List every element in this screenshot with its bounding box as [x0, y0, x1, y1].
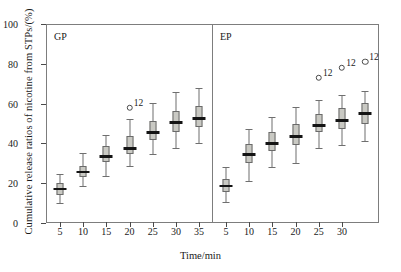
x-tick-label: 15 — [259, 226, 285, 237]
whisker-cap — [103, 176, 110, 177]
x-tick-mark — [272, 222, 273, 227]
x-tick-mark — [249, 222, 250, 227]
plot-area: GP EP — [46, 24, 379, 223]
whisker-cap — [126, 166, 133, 167]
panel-ep-title: EP — [220, 31, 232, 42]
box-iqr — [126, 136, 133, 154]
outlier-marker — [315, 74, 322, 81]
panel-gp-title: GP — [54, 31, 67, 42]
y-tick-label: 60 — [0, 98, 18, 109]
whisker-cap — [362, 91, 369, 92]
outlier-marker — [126, 104, 133, 111]
whisker-cap — [172, 92, 179, 93]
x-tick-label: 20 — [117, 226, 143, 237]
y-tick-label: 0 — [0, 218, 18, 229]
x-tick-label: 5 — [213, 226, 239, 237]
whisker-cap — [246, 129, 253, 130]
y-tick-mark — [41, 24, 46, 25]
x-tick-label: 20 — [283, 226, 309, 237]
whisker-cap — [222, 167, 229, 168]
x-tick-mark — [199, 222, 200, 227]
median-line — [193, 117, 206, 119]
median-line — [169, 121, 182, 123]
whisker-cap — [56, 174, 63, 175]
x-axis-label: Time/min — [0, 250, 401, 261]
median-line — [53, 188, 66, 190]
x-tick-mark — [60, 222, 61, 227]
whisker-cap — [292, 163, 299, 164]
whisker-cap — [103, 135, 110, 136]
x-tick-label: 10 — [70, 226, 96, 237]
whisker-cap — [126, 119, 133, 120]
whisker-cap — [172, 148, 179, 149]
x-tick-mark — [176, 222, 177, 227]
x-tick-label: 25 — [140, 226, 166, 237]
y-tick-label: 20 — [0, 178, 18, 189]
outlier-marker — [339, 65, 346, 72]
y-tick-label: 40 — [0, 138, 18, 149]
y-tick-mark — [41, 183, 46, 184]
x-tick-label: 15 — [93, 226, 119, 237]
whisker-cap — [269, 167, 276, 168]
box-iqr — [315, 114, 322, 133]
chart-root: Cumulative release ratios of nicotine fr… — [0, 0, 401, 272]
whisker-cap — [80, 153, 87, 154]
whisker-cap — [315, 100, 322, 101]
outlier-label: 12 — [323, 68, 333, 78]
outlier-label: 12 — [134, 98, 144, 108]
whisker-cap — [338, 145, 345, 146]
whisker-cap — [269, 117, 276, 118]
whisker-cap — [149, 103, 156, 104]
median-line — [146, 131, 159, 133]
median-line — [312, 124, 325, 126]
median-line — [100, 155, 113, 157]
median-line — [243, 153, 256, 155]
median-line — [219, 185, 232, 187]
x-tick-mark — [319, 222, 320, 227]
x-tick-mark — [226, 222, 227, 227]
x-tick-mark — [342, 222, 343, 227]
x-tick-mark — [130, 222, 131, 227]
median-line — [266, 142, 279, 144]
x-tick-mark — [153, 222, 154, 227]
x-tick-label: 25 — [306, 226, 332, 237]
y-tick-mark — [41, 64, 46, 65]
whisker-cap — [196, 88, 203, 89]
x-tick-mark — [106, 222, 107, 227]
x-tick-label: 10 — [236, 226, 262, 237]
x-tick-label: 35 — [186, 226, 212, 237]
whisker-cap — [80, 186, 87, 187]
whisker-cap — [56, 203, 63, 204]
y-tick-mark — [41, 223, 46, 224]
whisker-cap — [149, 154, 156, 155]
outlier-label: 12 — [346, 58, 356, 68]
x-tick-label: 5 — [47, 226, 73, 237]
median-line — [359, 112, 372, 114]
x-tick-label: 30 — [163, 226, 189, 237]
outlier-marker — [362, 59, 369, 66]
median-line — [123, 147, 136, 149]
outlier-label: 12 — [369, 52, 379, 62]
whisker-cap — [315, 148, 322, 149]
x-tick-mark — [296, 222, 297, 227]
y-axis-label: Cumulative release ratios of nicotine fr… — [23, 2, 34, 242]
whisker-cap — [362, 141, 369, 142]
whisker-cap — [338, 95, 345, 96]
y-tick-label: 100 — [0, 19, 18, 30]
median-line — [335, 119, 348, 121]
x-tick-mark — [83, 222, 84, 227]
y-tick-mark — [41, 104, 46, 105]
y-tick-label: 80 — [0, 58, 18, 69]
whisker-cap — [292, 107, 299, 108]
y-tick-mark — [41, 143, 46, 144]
median-line — [77, 171, 90, 173]
whisker-cap — [246, 181, 253, 182]
whisker-cap — [222, 202, 229, 203]
median-line — [289, 135, 302, 137]
x-tick-label: 30 — [329, 226, 355, 237]
whisker-cap — [196, 143, 203, 144]
